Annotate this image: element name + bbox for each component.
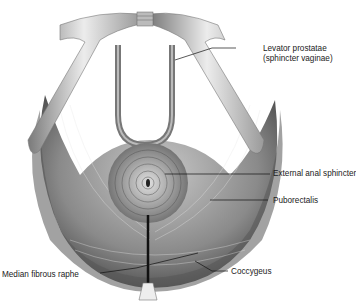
label-line1: Levator prostatae	[263, 44, 333, 54]
label-levator-prostatae: Levator prostatae (sphincter vaginae)	[263, 44, 333, 64]
external-anal-sphincter	[108, 143, 188, 223]
label-median-fibrous-raphe: Median fibrous raphe	[2, 270, 79, 280]
label-line2: (sphincter vaginae)	[263, 54, 333, 64]
label-external-anal-sphincter: External anal sphincter	[273, 169, 356, 179]
label-coccygeus: Coccygeus	[231, 267, 272, 277]
levator-prostatae-loop	[118, 45, 172, 145]
pubic-bones	[28, 12, 264, 153]
label-puborectalis: Puborectalis	[273, 196, 318, 206]
